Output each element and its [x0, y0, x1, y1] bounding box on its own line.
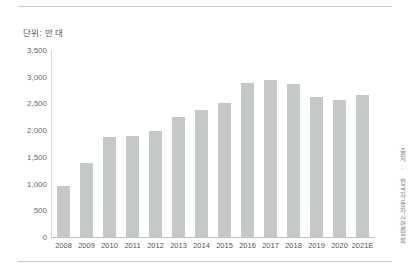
x-axis-tick-label: 2018	[285, 241, 302, 250]
bar	[287, 84, 300, 237]
x-axis-tick-label: 2012	[147, 241, 164, 250]
x-axis-tick-label: 2016	[239, 241, 256, 250]
y-axis-tick-label: 1,000	[27, 179, 47, 188]
x-axis-tick-label: 2021E	[352, 241, 374, 250]
bar	[195, 110, 208, 237]
bottom-divider-rule	[18, 261, 392, 262]
x-axis-tick-label: 2020	[331, 241, 348, 250]
y-axis-tick-label: 2,000	[27, 126, 47, 135]
x-axis-tick-label: 2013	[170, 241, 187, 250]
y-axis-tick-label: 3,000	[27, 72, 47, 81]
x-axis-tick-label: 2009	[78, 241, 95, 250]
bar	[356, 95, 369, 237]
bar	[126, 136, 139, 237]
bar	[264, 80, 277, 237]
x-axis-tick-label: 2008	[55, 241, 72, 250]
y-axis-tick-label: 3,500	[27, 46, 47, 55]
bar	[218, 103, 231, 237]
y-axis-tick-label: 500	[34, 206, 47, 215]
y-axis-tick-label: 0	[43, 233, 47, 242]
bar	[310, 97, 323, 237]
bar	[333, 100, 346, 237]
top-divider-rule	[18, 6, 392, 7]
x-axis-tick-label: 2019	[308, 241, 325, 250]
unit-label: 단위: 만 대	[23, 26, 64, 38]
bar	[80, 163, 93, 237]
bar	[149, 131, 162, 237]
bar	[241, 83, 254, 237]
chart-page: 단위: 만 대 05001,0001,5002,0002,5003,0003,5…	[0, 0, 410, 273]
bar	[172, 117, 185, 237]
x-axis-tick-label: 2011	[124, 241, 140, 250]
y-axis-tick-label: 2,500	[27, 99, 47, 108]
x-axis-tick-label: 2015	[216, 241, 233, 250]
source-credit: 출처: 한국자동차산업협회	[399, 148, 406, 244]
x-axis-tick-label: 2017	[262, 241, 279, 250]
y-axis-tick-label: 1,500	[27, 152, 47, 161]
x-axis-tick-label: 2010	[101, 241, 118, 250]
x-axis-line	[51, 237, 375, 238]
plot-area: 05001,0001,5002,0002,5003,0003,500200820…	[52, 50, 374, 237]
bar	[57, 186, 70, 237]
x-axis-tick-label: 2014	[193, 241, 210, 250]
bar	[103, 137, 116, 237]
